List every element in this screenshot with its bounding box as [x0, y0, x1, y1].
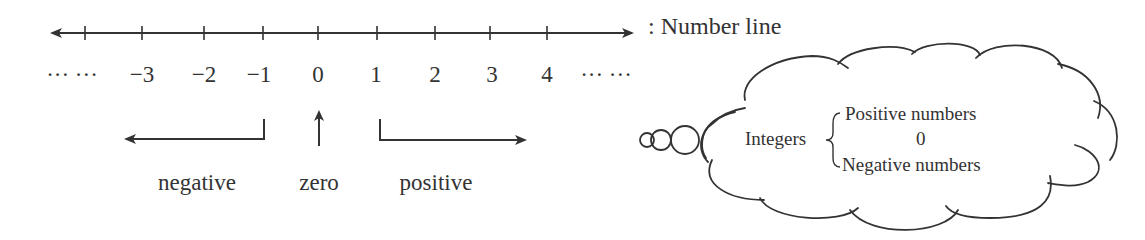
tick-label-neg1: −1: [247, 62, 271, 88]
number-line-axis: [52, 26, 632, 40]
tick-label-1: 1: [370, 62, 382, 88]
thought-bubble-circles: [640, 126, 699, 154]
right-ellipsis: ··· ···: [580, 62, 632, 88]
tick-label-4: 4: [541, 62, 553, 88]
tick-label-neg2: −2: [192, 62, 216, 88]
tick-label-3: 3: [486, 62, 498, 88]
negative-label: negative: [158, 170, 236, 196]
left-ellipsis: ··· ···: [46, 62, 98, 88]
negative-numbers-item: Negative numbers: [842, 154, 981, 176]
curly-brace: [826, 113, 840, 167]
tick-label-neg3: −3: [130, 62, 154, 88]
zero-arrow: [314, 110, 324, 146]
negative-arrow: [124, 119, 264, 144]
zero-item: 0: [916, 128, 926, 150]
tick-label-2: 2: [429, 62, 441, 88]
positive-label: positive: [400, 170, 473, 196]
tick-label-0: 0: [312, 62, 324, 88]
positive-numbers-item: Positive numbers: [845, 103, 976, 125]
positive-arrow: [380, 119, 527, 145]
integers-label: Integers: [745, 128, 806, 150]
number-line-title: : Number line: [648, 13, 781, 40]
zero-label: zero: [299, 170, 339, 196]
